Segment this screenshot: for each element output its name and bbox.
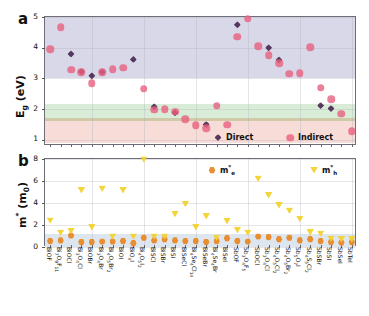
data-point-mh <box>119 187 127 194</box>
gridline-vertical <box>92 159 93 245</box>
data-point-mh <box>192 224 200 231</box>
gridline-horizontal <box>45 17 355 18</box>
data-point-Indirect <box>46 46 54 54</box>
x-tick-label: BiSCl <box>149 247 156 262</box>
x-tick-mark <box>341 144 342 147</box>
gridline-horizontal <box>45 109 355 110</box>
data-point-Indirect <box>88 79 96 87</box>
legend-indirect-label: Indirect <box>298 133 333 142</box>
data-point-Indirect <box>286 70 294 78</box>
x-tick-label: SbOCl <box>253 247 260 265</box>
y-tick-mark <box>42 159 45 160</box>
gridline-horizontal <box>45 203 355 204</box>
data-point-Indirect <box>78 69 86 77</box>
x-tick-label: Sb4S5Cl2 <box>302 247 312 273</box>
x-tick-mark <box>175 144 176 147</box>
gridline-vertical <box>352 159 353 245</box>
x-tick-mark <box>102 144 103 147</box>
x-tick-mark <box>237 144 238 147</box>
x-tick-label: Bi3O4Br <box>94 247 104 270</box>
x-tick-mark <box>217 144 218 147</box>
data-point-mh <box>171 211 179 218</box>
data-point-Indirect <box>150 106 158 114</box>
data-point-Indirect <box>67 66 75 74</box>
gridline-vertical <box>248 17 249 144</box>
gridline-horizontal <box>45 181 355 182</box>
x-tick-mark <box>61 144 62 147</box>
data-point-Indirect <box>348 128 356 136</box>
x-tick-mark <box>248 144 249 147</box>
y-tick-mark <box>42 181 45 182</box>
data-point-Indirect <box>338 110 346 118</box>
x-tick-mark <box>269 144 270 147</box>
x-tick-mark <box>113 144 114 147</box>
mh-marker-swatch <box>310 166 318 174</box>
data-point-mh <box>98 185 106 192</box>
x-tick-mark <box>71 144 72 147</box>
y-tick-label: 5 <box>12 12 38 21</box>
y-tick-label: 4 <box>12 198 38 207</box>
y-tick-label: 2 <box>12 220 38 229</box>
x-tick-label: BiSeI <box>222 247 229 262</box>
x-tick-mark <box>123 144 124 147</box>
x-tick-mark <box>165 144 166 147</box>
x-tick-mark <box>289 144 290 147</box>
panel-a-plot-area <box>44 16 356 145</box>
gridline-vertical <box>300 159 301 245</box>
x-tick-mark <box>144 144 145 147</box>
y-tick-mark <box>42 48 45 49</box>
legend-mh-label: m*h <box>322 164 337 176</box>
legend-me-sub: e <box>231 170 235 176</box>
x-tick-label: Sb5O7I <box>291 247 301 267</box>
data-point-Indirect <box>119 64 127 72</box>
x-tick-label: SbTeI <box>347 247 354 263</box>
gridline-vertical <box>144 159 145 245</box>
gridline-vertical <box>144 17 145 144</box>
data-point-mh <box>182 201 190 208</box>
x-tick-label: Sb3O4Cl <box>260 247 270 271</box>
x-tick-label: SbOF <box>232 247 239 263</box>
x-tick-mark <box>321 144 322 147</box>
x-tick-label: Sb4O5Br2 <box>281 247 291 274</box>
data-point-Indirect <box>98 69 106 77</box>
y-tick-label: 8 <box>12 154 38 163</box>
x-tick-label: BiOBr <box>87 247 94 264</box>
x-tick-label: Bi4O5I2 <box>135 247 145 268</box>
x-tick-label: Bi4O5Br2 <box>104 247 114 273</box>
x-tick-mark <box>352 144 353 147</box>
data-point-mh <box>296 216 304 223</box>
legend-me-label: m*e <box>220 164 235 176</box>
data-point-Indirect <box>317 84 325 92</box>
figure-canvas: a b Eg (eV) 12345 Direct Indirect m* (m0… <box>0 0 369 316</box>
x-tick-label: BiSBr <box>159 247 166 263</box>
data-point-Indirect <box>57 24 65 32</box>
legend-electron-mass: m*e <box>208 164 235 176</box>
data-point-mh <box>265 192 273 199</box>
y-tick-mark <box>42 140 45 141</box>
legend-direct-label: Direct <box>226 133 253 142</box>
data-point-Indirect <box>109 65 117 73</box>
legend-indirect: Indirect <box>286 133 333 142</box>
y-tick-mark <box>42 17 45 18</box>
data-point-Indirect <box>171 108 179 116</box>
y-tick-label: 0 <box>12 242 38 251</box>
data-point-mh <box>78 187 86 194</box>
x-tick-label: BiOI <box>118 247 125 259</box>
x-tick-mark <box>300 144 301 147</box>
x-tick-label: SbSI <box>326 247 333 260</box>
data-point-Indirect <box>244 15 252 23</box>
x-tick-mark <box>227 144 228 147</box>
x-tick-mark <box>196 144 197 147</box>
y-tick-label: 3 <box>12 73 38 82</box>
data-point-mh <box>275 202 283 209</box>
gridline-vertical <box>300 17 301 144</box>
x-tick-label: BiSeCl <box>180 247 187 266</box>
data-point-mh <box>223 218 231 225</box>
x-axis-tick-labels: BiOFBi7O9F11BiOClBi3O4ClBiOBrBi3O4BrBi4O… <box>44 247 356 316</box>
data-point-Indirect <box>254 42 262 50</box>
x-tick-mark <box>92 144 93 147</box>
data-point-mh <box>234 227 242 234</box>
legend-hole-mass: m*h <box>310 164 337 176</box>
x-tick-label: Bi7O9F11 <box>52 247 62 272</box>
data-point-Indirect <box>192 122 200 130</box>
